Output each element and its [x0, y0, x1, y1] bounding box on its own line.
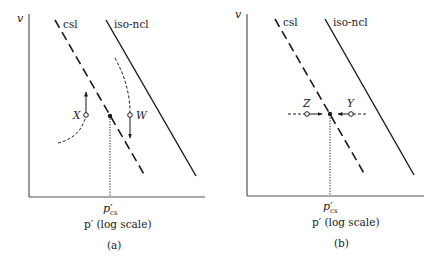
point-z-label: Z — [302, 97, 311, 109]
iso-ncl-line — [106, 20, 196, 176]
pcs-tick-sub: cs — [330, 207, 338, 215]
y-axis-label: v — [235, 8, 242, 21]
x-path-curve — [58, 116, 86, 143]
iso-ncl-label: iso-ncl — [114, 18, 149, 30]
point-z — [305, 112, 310, 117]
panel-a: v csl iso-ncl X W p′ cs p′ (log scale) (… — [17, 12, 205, 251]
csl-label: csl — [283, 16, 298, 28]
pcs-tick-sub: cs — [110, 209, 118, 217]
point-w-label: W — [136, 109, 148, 121]
critical-state-diagram: v csl iso-ncl X W p′ cs p′ (log scale) (… — [0, 0, 440, 263]
point-x — [84, 113, 89, 118]
panel-caption: (a) — [107, 239, 121, 251]
csl-label: csl — [63, 18, 78, 30]
x-axis-label: p′ (log scale) — [312, 216, 379, 228]
point-x-label: X — [72, 109, 81, 121]
x-axis-label: p′ (log scale) — [84, 218, 151, 230]
critical-point — [328, 112, 332, 116]
critical-point — [108, 114, 112, 118]
csl-line — [55, 20, 145, 176]
panel-caption: (b) — [334, 237, 349, 249]
w-path-curve — [115, 58, 130, 113]
point-w — [128, 113, 133, 118]
iso-ncl-label: iso-ncl — [333, 16, 368, 28]
iso-ncl-line — [325, 19, 414, 175]
point-y — [349, 112, 354, 117]
y-axis-label: v — [17, 12, 24, 25]
point-y-label: Y — [347, 97, 355, 109]
panel-b: v csl iso-ncl Z Y p′ cs p′ (log scale) (… — [235, 8, 424, 249]
